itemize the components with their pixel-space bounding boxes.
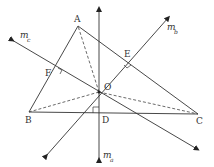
svg-text:b: b — [174, 28, 178, 35]
side-bc — [29, 112, 198, 114]
dashed-radii — [29, 26, 198, 114]
label-c: C — [196, 116, 203, 126]
right-angle-d — [93, 107, 99, 113]
triangle-abc — [29, 26, 198, 114]
diagram-canvas: A B C O D E F m a m b m c — [0, 0, 214, 167]
label-m-c: m c — [20, 30, 31, 43]
label-o: O — [104, 82, 111, 92]
label-e: E — [124, 49, 131, 59]
segment-oa — [78, 26, 99, 92]
label-m-a: m a — [103, 150, 114, 163]
bisector-m-c — [12, 40, 197, 149]
label-d: D — [102, 115, 109, 125]
triangle-diagram: A B C O D E F m a m b m c — [0, 0, 214, 167]
point-o — [98, 91, 101, 94]
label-b: B — [25, 115, 32, 125]
svg-text:a: a — [110, 156, 114, 163]
label-m-b: m b — [167, 22, 178, 35]
right-angle-e — [124, 65, 131, 68]
label-a: A — [73, 14, 81, 24]
side-ab — [29, 26, 78, 112]
svg-text:c: c — [27, 36, 31, 43]
label-f: F — [45, 68, 51, 78]
segment-ob — [29, 92, 99, 112]
side-ca — [78, 26, 198, 114]
